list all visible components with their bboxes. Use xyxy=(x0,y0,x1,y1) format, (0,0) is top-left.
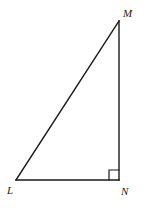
geometry-figure: M L N xyxy=(0,0,145,208)
vertex-label-M: M xyxy=(123,8,132,19)
right-angle-marker-icon xyxy=(109,170,119,180)
edge-LM-hypotenuse xyxy=(16,21,119,180)
vertex-label-N: N xyxy=(121,186,128,197)
vertex-label-L: L xyxy=(7,185,13,196)
triangle-outline xyxy=(16,21,119,180)
triangle-drawing xyxy=(0,0,145,208)
